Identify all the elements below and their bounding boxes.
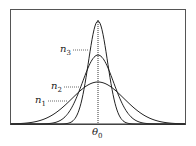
- label-n2: n2: [51, 81, 62, 94]
- label-n1-sub: 1: [41, 100, 45, 108]
- label-n3: n3: [60, 44, 71, 57]
- distribution-diagram: [0, 0, 196, 146]
- label-n2-sub: 2: [57, 86, 61, 94]
- x-axis-label-theta0: θ0: [92, 127, 103, 140]
- curve-n2: [11, 55, 185, 124]
- theta-sub: 0: [98, 132, 102, 140]
- label-n3-sub: 3: [66, 49, 70, 57]
- label-n1: n1: [35, 95, 46, 108]
